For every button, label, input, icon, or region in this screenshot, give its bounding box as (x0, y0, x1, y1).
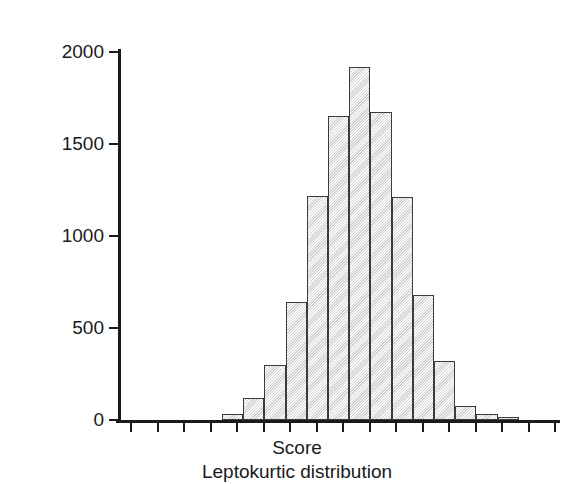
histogram-bar (413, 295, 434, 420)
y-tick-mark (109, 235, 118, 237)
histogram-bar (476, 414, 497, 420)
y-tick-mark (109, 327, 118, 329)
x-tick-mark (236, 422, 238, 432)
y-tick-label: 2000 (46, 42, 104, 61)
y-tick-label: 1000 (46, 226, 104, 245)
y-tick-label: 500 (46, 318, 104, 337)
x-tick-mark (263, 422, 265, 432)
x-tick-mark (342, 422, 344, 432)
x-tick-mark (422, 422, 424, 432)
chart-figure: Frequency 2000150010005000 Score Leptoku… (0, 0, 572, 484)
histogram-bar (328, 116, 349, 420)
x-tick-mark (316, 422, 318, 432)
histogram-bar (392, 197, 413, 420)
y-tick-mark (109, 419, 118, 421)
histogram-bar (434, 361, 455, 420)
y-tick-mark (109, 51, 118, 53)
figure-caption: Leptokurtic distribution (0, 461, 572, 483)
x-tick-mark (501, 422, 503, 432)
histogram-bar (349, 67, 370, 420)
x-tick-mark (528, 422, 530, 432)
y-tick-mark (109, 143, 118, 145)
x-tick-mark (157, 422, 159, 432)
x-tick-mark (554, 422, 556, 432)
x-tick-mark (130, 422, 132, 432)
x-tick-mark (395, 422, 397, 432)
histogram-bar (243, 398, 264, 420)
histogram-bars (118, 52, 558, 420)
y-tick-label: 0 (46, 410, 104, 429)
x-tick-mark (289, 422, 291, 432)
histogram-bar (264, 365, 285, 420)
y-tick-label: 1500 (46, 134, 104, 153)
histogram-bar (455, 406, 476, 420)
x-tick-mark (183, 422, 185, 432)
histogram-bar (286, 302, 307, 420)
x-axis-label: Score (0, 437, 572, 459)
plot-area (118, 52, 558, 420)
histogram-bar (222, 414, 243, 420)
x-tick-mark (448, 422, 450, 432)
y-axis-label: Frequency (0, 0, 30, 484)
y-axis-tick-labels: 2000150010005000 (46, 0, 104, 484)
x-tick-mark (210, 422, 212, 432)
histogram-bar (370, 112, 391, 420)
x-tick-mark (369, 422, 371, 432)
histogram-bar (307, 196, 328, 420)
x-tick-mark (475, 422, 477, 432)
histogram-bar (498, 417, 519, 420)
